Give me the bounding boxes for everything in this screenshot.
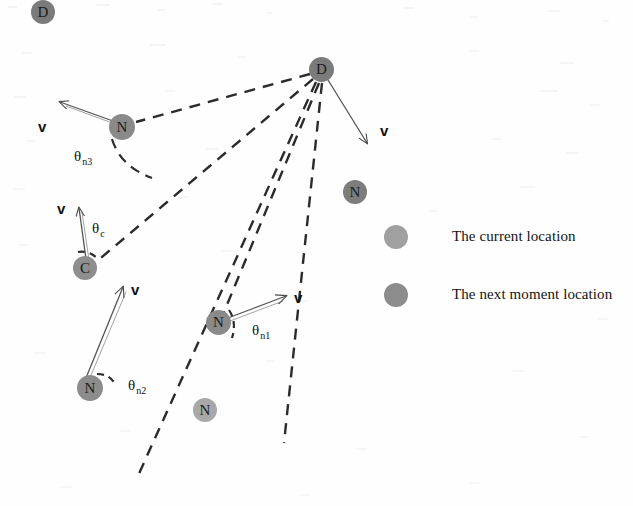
theta-subscript: n3 bbox=[81, 156, 92, 167]
theta-subscript: n1 bbox=[259, 330, 270, 341]
node-label: C bbox=[80, 260, 90, 275]
dashed-link-d-c bbox=[96, 79, 313, 262]
node-n-right[interactable]: N bbox=[343, 180, 367, 204]
angle-label-n3: θn3 bbox=[74, 148, 92, 167]
theta-subscript: c bbox=[99, 228, 104, 239]
node-n2[interactable]: N bbox=[77, 375, 103, 401]
velocity-label-n1: v bbox=[294, 289, 302, 306]
node-label: D bbox=[316, 62, 327, 77]
dashed-link-d-bottom bbox=[284, 83, 322, 443]
node-label: D bbox=[38, 4, 49, 19]
node-label: N bbox=[85, 380, 96, 395]
velocity-vector-n1 bbox=[228, 296, 286, 318]
velocity-vector-n3 bbox=[60, 102, 113, 121]
angle-label-n2: θn2 bbox=[128, 377, 146, 396]
node-label: N bbox=[213, 315, 224, 330]
legend-label-current: The current location bbox=[452, 228, 576, 245]
legend-label-next: The next moment location bbox=[452, 286, 612, 303]
node-n-bottom[interactable]: N bbox=[193, 398, 217, 422]
legend-dot-current bbox=[384, 225, 408, 249]
velocity-vector-n2 bbox=[86, 287, 123, 378]
node-d-top-left[interactable]: D bbox=[31, 0, 55, 24]
node-label: N bbox=[200, 402, 211, 417]
dashed-link-d-n3 bbox=[136, 74, 310, 122]
node-label: N bbox=[117, 119, 128, 134]
legend-dot-next bbox=[384, 283, 408, 307]
velocity-label-d: v bbox=[380, 122, 388, 139]
angle-arc-n3 bbox=[112, 139, 152, 178]
dashed-link-d-n2 bbox=[137, 82, 316, 478]
node-n3[interactable]: N bbox=[109, 114, 135, 140]
node-n1[interactable]: N bbox=[206, 310, 231, 335]
angle-label-c: θc bbox=[92, 220, 105, 239]
dashed-link-d-n1 bbox=[224, 83, 319, 312]
velocity-label-n3: v bbox=[38, 118, 46, 135]
node-c[interactable]: C bbox=[73, 256, 97, 280]
theta-subscript: n2 bbox=[135, 385, 146, 396]
velocity-label-n2: v bbox=[131, 281, 139, 298]
node-label: N bbox=[350, 184, 361, 199]
angle-label-n1: θn1 bbox=[252, 322, 270, 341]
node-d-main[interactable]: D bbox=[309, 57, 334, 82]
diagram-canvas: D D N N C N N N v v v v v θn3 θc θn1 θn2… bbox=[0, 0, 633, 506]
velocity-vector-d bbox=[328, 80, 367, 143]
velocity-label-c: v bbox=[57, 200, 65, 217]
